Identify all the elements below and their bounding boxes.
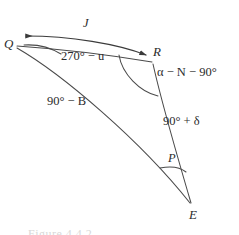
side-label-QR: J [83, 17, 89, 30]
angle-label-E: P [168, 152, 176, 165]
angle-label-Q: 270° − u [61, 50, 104, 63]
vertex-label-R: R [153, 45, 161, 58]
figure-container: Q R E 90° − B 90° + δ J 270° − u α − N −… [0, 0, 239, 235]
side-label-RE: 90° + δ [163, 115, 200, 128]
figure-caption: Figure 4.4.2 [28, 227, 92, 235]
side-label-QE: 90° − B [47, 95, 86, 108]
angle-label-R: α − N − 90° [157, 66, 217, 79]
spherical-triangle-svg [0, 0, 239, 235]
vertex-label-E: E [189, 208, 197, 221]
angle-arc-R [119, 55, 158, 96]
vertex-label-Q: Q [4, 37, 13, 50]
